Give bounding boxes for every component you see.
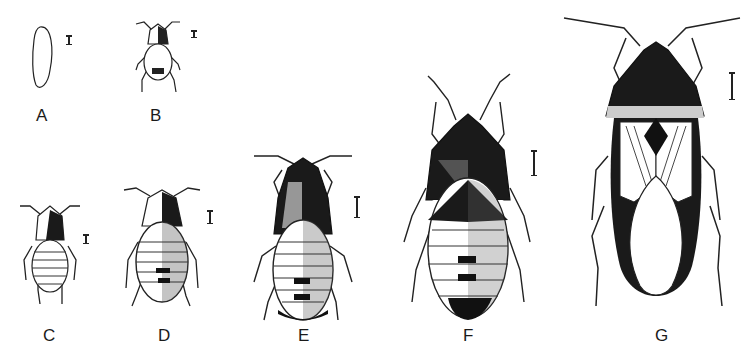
scale-bar-a <box>68 35 70 45</box>
scale-bar-d <box>209 210 211 224</box>
label-e: E <box>298 326 309 346</box>
scale-bar-f <box>533 150 535 176</box>
adult-g-illustration <box>560 6 750 328</box>
scale-bar-g <box>731 72 733 100</box>
label-b: B <box>150 106 161 126</box>
nymph-d-illustration <box>118 184 208 310</box>
label-c: C <box>43 326 55 346</box>
scale-bar-b <box>193 30 195 38</box>
nymph-f-illustration <box>392 70 542 330</box>
nymph-e-illustration <box>248 152 358 324</box>
egg-illustration <box>30 25 60 95</box>
label-f: F <box>463 326 473 346</box>
nymph-b-illustration <box>132 16 184 98</box>
label-d: D <box>158 326 170 346</box>
label-a: A <box>36 106 47 126</box>
scale-bar-c <box>85 234 87 244</box>
label-g: G <box>655 326 668 346</box>
nymph-c-illustration <box>16 204 84 308</box>
scale-bar-e <box>356 196 358 218</box>
